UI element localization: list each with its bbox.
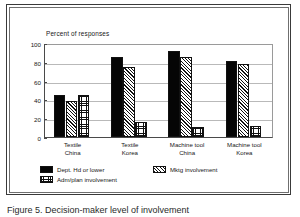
bar xyxy=(123,67,135,137)
y-axis-tick-labels: 020406080100 xyxy=(24,44,41,138)
legend-swatch-icon xyxy=(153,166,166,173)
figure-caption: Figure 5. Decision-maker level of involv… xyxy=(7,205,293,217)
x-tick-label: Machine toolKorea xyxy=(216,141,273,156)
y-tick-label: 80 xyxy=(25,59,41,66)
chart-legend: Dept. Hd or lowerMktg involvementAdm/pla… xyxy=(40,166,270,188)
bar-group xyxy=(217,45,274,137)
bar-chart: Percent of responses 020406080100 Textil… xyxy=(0,0,300,217)
bar xyxy=(135,122,147,137)
legend-item: Mktg involvement xyxy=(153,166,217,173)
bar-group xyxy=(102,45,159,137)
y-tick-mark xyxy=(44,82,47,83)
figure-root: Percent of responses 020406080100 Textil… xyxy=(0,0,300,217)
y-tick-mark xyxy=(44,119,47,120)
legend-item: Adm/plan involvement xyxy=(40,176,117,183)
bar xyxy=(54,95,66,137)
bar-group xyxy=(45,45,102,137)
bar xyxy=(78,95,90,137)
x-tick-label: TextileKorea xyxy=(101,141,158,156)
y-tick-label: 20 xyxy=(25,116,41,123)
y-tick-mark xyxy=(44,138,47,139)
bar xyxy=(180,57,192,137)
bar xyxy=(192,127,204,137)
plot-area xyxy=(44,44,273,138)
bar xyxy=(111,57,123,137)
y-tick-label: 100 xyxy=(25,41,41,48)
bar xyxy=(66,101,78,137)
y-tick-mark xyxy=(44,63,47,64)
x-axis-tick-labels: TextileChinaTextileKoreaMachine toolChin… xyxy=(44,141,273,161)
legend-label: Adm/plan involvement xyxy=(57,176,117,183)
bar-group xyxy=(160,45,217,137)
y-tick-label: 40 xyxy=(25,97,41,104)
y-tick-label: 60 xyxy=(25,78,41,85)
bar xyxy=(238,64,250,137)
legend-label: Mktg involvement xyxy=(170,166,217,173)
bar xyxy=(226,61,238,137)
legend-swatch-icon xyxy=(40,166,53,173)
y-tick-label: 0 xyxy=(25,135,41,142)
x-tick-label: TextileChina xyxy=(44,141,101,156)
legend-label: Dept. Hd or lower xyxy=(57,166,104,173)
y-tick-mark xyxy=(44,44,47,45)
bar xyxy=(168,51,180,137)
bar xyxy=(250,126,262,137)
y-tick-mark xyxy=(44,100,47,101)
y-axis-title: Percent of responses xyxy=(46,30,109,37)
legend-item: Dept. Hd or lower xyxy=(40,166,104,173)
x-tick-label: Machine toolChina xyxy=(159,141,216,156)
legend-swatch-icon xyxy=(40,176,53,183)
